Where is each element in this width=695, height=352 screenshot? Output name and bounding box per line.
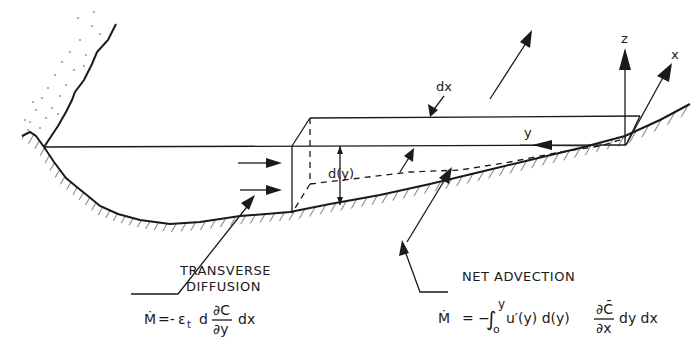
y-axis-label: y [524,125,532,140]
transverse-diffusion-equation: Ṁ =- ε t d ∂C ∂y dx [144,302,255,337]
eq1-coefficient: ε [178,311,186,327]
eq2-lhs: Ṁ [438,309,450,326]
depth-label: d(y) [328,166,354,181]
x-axis-label: x [671,47,679,62]
eq2-upper-limit: y [498,297,505,311]
eq1-lhs: Ṁ [144,310,156,327]
diffusion-arrow-upper [238,158,282,168]
flow-direction-arrow [490,30,532,99]
eq2-fraction-denominator: ∂x [596,320,612,336]
dx-label: dx [436,79,452,94]
eq1-tail: dx [238,311,255,327]
eq2-fraction-numerator: ∂C̄ [596,300,613,317]
z-axis [619,48,631,145]
river-bed-hatch-band [22,104,690,232]
net-advection-leader [399,240,448,292]
net-advection-title: NET ADVECTION [462,269,575,284]
inner-flux-arrow [400,148,414,172]
transverse-diffusion-title-line1: TRANSVERSE [179,263,271,278]
net-advection-equation: Ṁ = − ∫ y o u′(y) d(y) ∂C̄ ∂x dy dx [438,297,658,336]
dx-arrow [428,96,444,117]
z-axis-label: z [621,31,628,46]
control-volume-element [292,116,640,213]
eq2-tail: dy dx [619,310,658,326]
eq1-fraction-numerator: ∂C [213,302,230,318]
eq1-equals: =- [158,311,175,327]
eq1-fraction-denominator: ∂y [213,321,229,337]
diffusion-arrow-lower [240,185,282,195]
river-cross-section-diagram: d(y) dx y z x [0,0,695,352]
eq1-depth: d [199,311,208,327]
eq2-body: u′(y) d(y) [506,310,570,326]
bank-outline [44,24,116,147]
eq1-coefficient-subscript: t [187,319,191,330]
eq2-lower-limit: o [493,323,500,336]
transverse-diffusion-title-line2: DIFFUSION [186,279,261,294]
net-advection-arrow [407,167,452,242]
